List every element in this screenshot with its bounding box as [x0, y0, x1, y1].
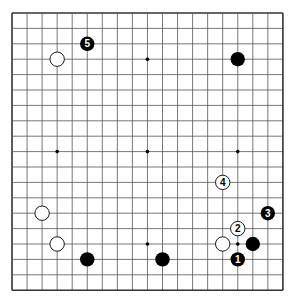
star-point — [55, 150, 59, 154]
move-number: 1 — [235, 254, 241, 265]
star-point — [146, 150, 150, 154]
move-number: 4 — [220, 177, 226, 188]
black-stone — [80, 252, 94, 266]
stone-circle — [246, 237, 260, 251]
move-number: 5 — [84, 38, 90, 49]
black-stone-move-3: 3 — [261, 206, 275, 220]
stone-circle — [155, 252, 169, 266]
stone-circle — [50, 52, 64, 66]
star-point — [236, 150, 240, 154]
white-stone — [35, 206, 49, 220]
stone-circle — [80, 252, 94, 266]
go-board: 54321 — [0, 0, 292, 302]
move-number: 3 — [265, 208, 271, 219]
stone-circle — [50, 237, 64, 251]
black-stone — [246, 237, 260, 251]
move-number: 2 — [235, 223, 241, 234]
stone-circle — [216, 237, 230, 251]
star-point — [146, 242, 150, 246]
black-stone — [155, 252, 169, 266]
black-stone-move-5: 5 — [80, 37, 94, 51]
white-stone-move-4: 4 — [216, 175, 230, 189]
stone-circle — [35, 206, 49, 220]
white-stone — [216, 237, 230, 251]
white-stone — [50, 52, 64, 66]
stone-circle — [231, 52, 245, 66]
black-stone — [231, 52, 245, 66]
star-point — [146, 57, 150, 61]
black-stone-move-1: 1 — [231, 252, 245, 266]
star-point — [236, 242, 240, 246]
white-stone — [50, 237, 64, 251]
white-stone-move-2: 2 — [231, 221, 245, 235]
